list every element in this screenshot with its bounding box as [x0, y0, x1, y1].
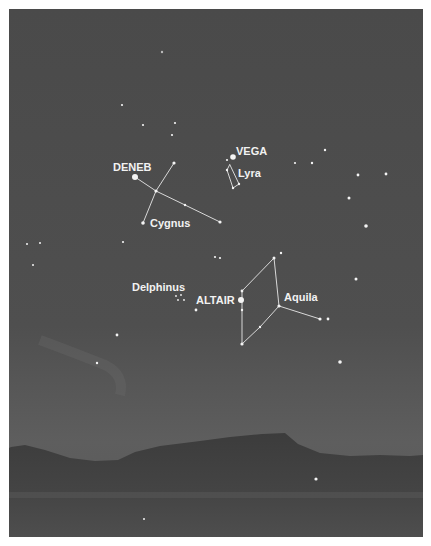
star-vega: [230, 154, 236, 160]
star-altair: [238, 297, 244, 303]
label-deneb: DENEB: [113, 161, 152, 173]
label-aquila: Aquila: [284, 291, 318, 303]
label-vega: VEGA: [236, 145, 267, 157]
night-sky-photo: DENEB Cygnus VEGA Lyra Delphinus ALTAIR …: [9, 9, 423, 537]
label-cygnus: Cygnus: [150, 217, 190, 229]
label-delphinus: Delphinus: [132, 281, 185, 293]
label-altair: ALTAIR: [196, 294, 235, 306]
foreground-haze: [9, 492, 423, 498]
label-lyra: Lyra: [238, 167, 262, 179]
star-deneb: [132, 174, 138, 180]
